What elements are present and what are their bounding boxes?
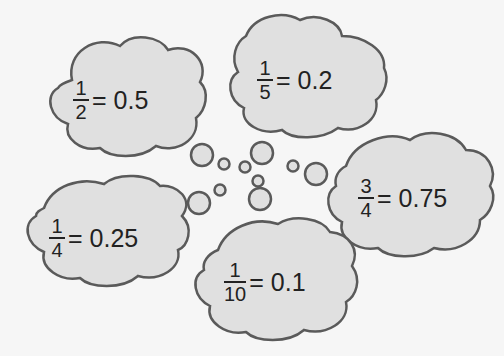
decimal-value: = 0.1 [249,268,305,297]
numerator: 1 [75,78,86,98]
denominator: 4 [51,240,62,260]
thought-bubble [305,163,327,185]
thought-bubble [249,188,271,210]
numerator: 1 [51,216,62,236]
equation-half: 12 = 0.5 [73,78,148,122]
thought-bubble [251,142,273,164]
equation-three-quarters: 34 = 0.75 [358,176,447,220]
thought-bubble [188,192,210,214]
denominator: 2 [75,102,86,122]
denominator: 10 [224,284,246,304]
thought-bubble [215,185,226,196]
decimal-value: = 0.5 [92,86,148,115]
equation-quarter: 14 = 0.25 [49,216,138,260]
denominator: 4 [360,200,371,220]
thought-bubble [288,161,299,172]
numerator: 3 [360,176,371,196]
decimal-value: = 0.75 [377,184,447,213]
numerator: 1 [230,260,241,280]
thought-bubble [191,144,213,166]
equation-fifth: 15 = 0.2 [257,58,332,102]
thought-bubble [253,176,264,187]
equation-tenth: 110 = 0.1 [224,260,306,304]
decimal-value: = 0.25 [68,224,138,253]
thought-bubble [219,159,230,170]
thought-bubble [240,162,251,173]
denominator: 5 [259,82,270,102]
numerator: 1 [259,58,270,78]
decimal-value: = 0.2 [276,66,332,95]
